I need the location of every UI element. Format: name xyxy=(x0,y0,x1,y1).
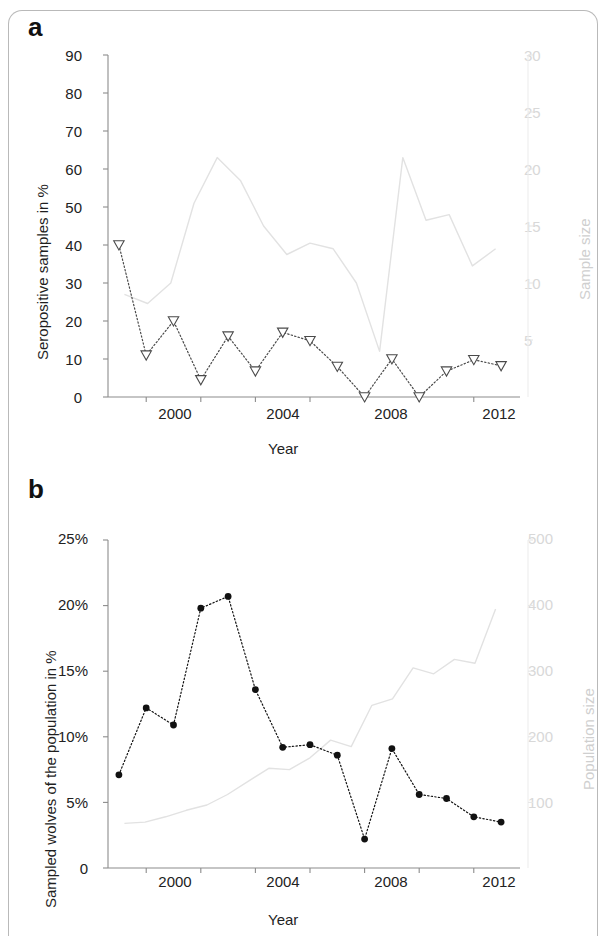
data-point-marker xyxy=(114,241,124,250)
data-point-marker xyxy=(361,836,368,843)
primary-series-line xyxy=(119,596,501,839)
data-point-marker xyxy=(223,332,233,341)
data-point-marker xyxy=(498,819,505,826)
data-point-marker xyxy=(334,752,341,759)
panel-a: a Seropositive samples in % Sample size … xyxy=(0,0,603,470)
panel-b-plot-area xyxy=(0,468,603,938)
data-point-marker xyxy=(278,328,288,337)
data-point-marker xyxy=(496,362,506,371)
data-point-marker xyxy=(389,745,396,752)
data-point-marker xyxy=(168,317,178,326)
secondary-series-line xyxy=(124,158,495,352)
data-point-marker xyxy=(116,771,123,778)
data-point-marker xyxy=(307,741,314,748)
data-point-marker xyxy=(250,367,260,376)
data-point-marker xyxy=(443,795,450,802)
data-point-marker xyxy=(416,791,423,798)
data-point-marker xyxy=(196,376,206,385)
panel-a-plot-area xyxy=(0,0,603,470)
panel-b: b Sampled wolves of the population in % … xyxy=(0,468,603,938)
data-point-marker xyxy=(470,813,477,820)
data-point-marker xyxy=(141,351,151,360)
data-point-marker xyxy=(197,605,204,612)
data-point-marker xyxy=(143,705,150,712)
data-point-marker xyxy=(252,686,259,693)
secondary-series-line xyxy=(124,609,495,824)
data-point-marker xyxy=(387,355,397,364)
data-point-marker xyxy=(170,722,177,729)
data-point-marker xyxy=(225,593,232,600)
data-point-marker xyxy=(279,744,286,751)
